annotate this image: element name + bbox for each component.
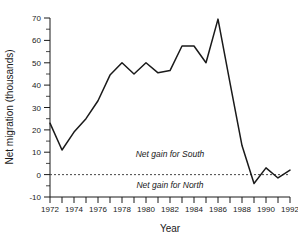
x-axis-title: Year [160,223,181,234]
y-tick-label: 30 [32,104,41,113]
x-tick-label: 1978 [113,205,131,214]
x-tick-label: 1986 [209,205,227,214]
y-tick-label: 0 [37,171,42,180]
y-tick-label: -10 [29,193,41,202]
y-tick-label: 50 [32,59,41,68]
x-tick-label: 1982 [161,205,179,214]
x-tick-label: 1980 [137,205,155,214]
x-tick-label: 1988 [233,205,251,214]
y-tick-label: 10 [32,148,41,157]
x-axis-tick-labels: 1972 1974 1976 1978 1980 1982 1984 1986 … [41,205,298,214]
y-tick-label: 60 [32,36,41,45]
x-tick-label: 1992 [281,205,298,214]
y-tick-label: 70 [32,14,41,23]
y-axis-title: Net migration (thousands) [4,49,15,164]
y-tick-label: 40 [32,81,41,90]
x-tick-label: 1972 [41,205,59,214]
annotation-net-gain-north: Net gain for North [136,180,203,190]
x-tick-label: 1974 [65,205,83,214]
migration-line-chart: 70 60 50 40 30 20 10 0 -10 [0,0,298,238]
y-tick-label: 20 [32,126,41,135]
x-axis-ticks [50,197,290,203]
x-tick-label: 1976 [89,205,107,214]
x-tick-label: 1984 [185,205,203,214]
x-tick-label: 1990 [257,205,275,214]
chart-background [0,0,298,238]
annotation-net-gain-south: Net gain for South [136,149,205,159]
chart-canvas: 70 60 50 40 30 20 10 0 -10 [0,0,298,238]
